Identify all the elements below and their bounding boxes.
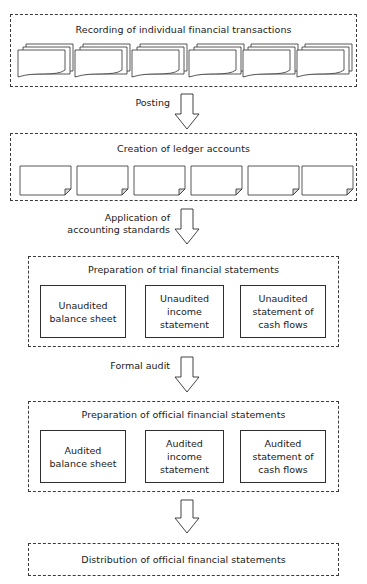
- official-balance-sheet-box: Audited balance sheet: [40, 430, 126, 483]
- official-income-statement-box: Audited income statement: [145, 430, 224, 483]
- trial-balance-sheet-label: Unaudited balance sheet: [50, 299, 117, 325]
- trial-cash-flows-box: Unaudited statement of cash flows: [240, 285, 326, 338]
- stage-official-title: Preparation of official financial statem…: [28, 409, 339, 421]
- official-balance-sheet-label: Audited balance sheet: [50, 444, 117, 470]
- trial-income-statement-box: Unaudited income statement: [145, 285, 224, 338]
- stage-recording-title: Recording of individual financial transa…: [10, 24, 357, 36]
- official-cash-flows-label: Audited statement of cash flows: [252, 437, 313, 476]
- stage-distribution-title: Distribution of official financial state…: [28, 554, 339, 566]
- trial-balance-sheet-box: Unaudited balance sheet: [40, 285, 126, 338]
- stage-ledger-title: Creation of ledger accounts: [10, 143, 357, 155]
- official-income-statement-label: Audited income statement: [160, 437, 209, 476]
- arrow-posting-label: Posting: [80, 97, 170, 109]
- down-arrow-icon: [175, 94, 199, 129]
- arrow-standards-label: Application of accounting standards: [62, 212, 170, 236]
- down-arrow-icon: [175, 357, 199, 392]
- trial-income-statement-label: Unaudited income statement: [160, 292, 209, 331]
- accounting-cycle-flowchart: Recording of individual financial transa…: [0, 0, 367, 584]
- stage-trial-title: Preparation of trial financial statement…: [28, 264, 339, 276]
- trial-cash-flows-label: Unaudited statement of cash flows: [252, 292, 313, 331]
- arrow-audit-label: Formal audit: [80, 360, 170, 372]
- down-arrow-icon: [175, 500, 199, 533]
- down-arrow-icon: [175, 209, 199, 244]
- official-cash-flows-box: Audited statement of cash flows: [240, 430, 326, 483]
